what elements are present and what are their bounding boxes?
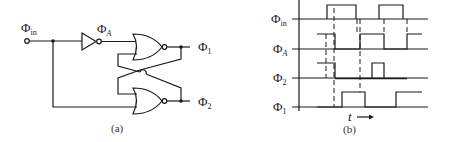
inverter-bubble [97, 39, 102, 44]
signal-label-phi-1: Φ1 [273, 99, 287, 116]
waveform-phi-a [317, 34, 422, 49]
signal-label-phi-in: Φin [271, 11, 287, 28]
nor-gate-top [133, 34, 162, 60]
time-label: t [348, 109, 352, 124]
signal-label-phi-a: ΦA [273, 41, 288, 58]
caption-b: (b) [343, 123, 356, 136]
timing-diagram [292, 0, 428, 120]
waveform-phi-in [327, 5, 356, 19]
inverter-output-label: ΦA [97, 21, 112, 38]
nor-gate-bottom [133, 88, 162, 114]
input-label: Φin [21, 20, 37, 37]
figure: Φin ΦA Φ1 Φ2 (a) [0, 0, 449, 142]
output2-label: Φ2 [198, 94, 212, 111]
nor-bottom-bubble [162, 99, 167, 104]
waveform-phi-1 [317, 92, 422, 107]
inverter-gate [82, 33, 96, 50]
signal-label-phi-2: Φ2 [273, 70, 287, 87]
timing-labels: Φin ΦA Φ2 Φ1 t (b) [271, 11, 356, 136]
nor-top-bubble [162, 45, 167, 50]
circuit-diagram [25, 33, 190, 114]
input-terminal [25, 39, 30, 44]
caption-a: (a) [111, 122, 124, 135]
circuit-labels: Φin ΦA Φ1 Φ2 (a) [21, 20, 212, 135]
output1-label: Φ1 [198, 39, 212, 56]
